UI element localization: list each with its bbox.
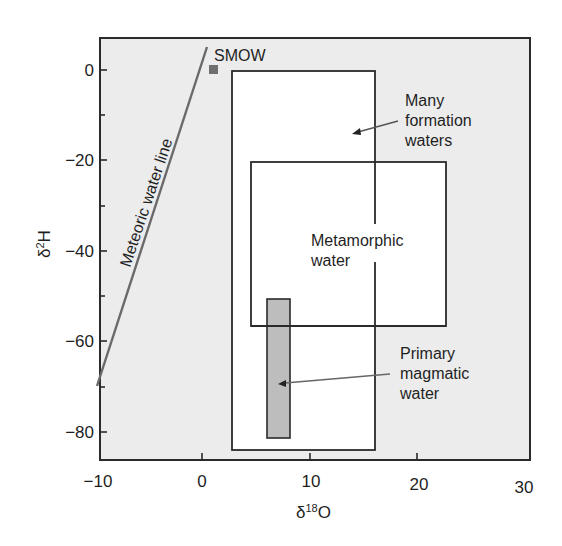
y-tick-label: 0 <box>85 61 94 80</box>
primary-magmatic-water-region <box>267 299 290 438</box>
x-tick-label: 0 <box>197 472 206 491</box>
x-tick-label: −10 <box>84 472 113 491</box>
smow-marker <box>209 65 218 74</box>
y-tick-label: −60 <box>65 332 94 351</box>
y-tick-label: −80 <box>65 423 94 442</box>
y-tick-label: −40 <box>65 242 94 261</box>
isotope-chart: 0 −20 −40 −60 −80 −10 0 10 20 30 δ18O δ2… <box>0 0 562 546</box>
x-tick-label: 10 <box>302 472 321 491</box>
x-tick-label: 30 <box>515 478 534 497</box>
x-tick-label: 20 <box>410 475 429 494</box>
x-axis-title: δ18O <box>296 502 331 522</box>
y-tick-label: −20 <box>65 151 94 170</box>
y-axis-title: δ2H <box>34 230 54 258</box>
smow-label: SMOW <box>214 47 266 64</box>
